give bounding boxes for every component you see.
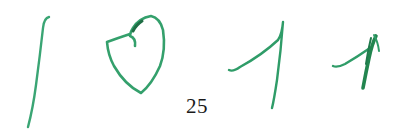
handwritten-digit-7-or-1	[229, 22, 283, 108]
page-number: 25	[186, 94, 208, 118]
handwritten-digit-1	[28, 17, 49, 127]
handwritten-digit-0-heart	[107, 16, 164, 93]
handwritten-digit-small-1	[333, 35, 379, 88]
handwriting-sheet: 25	[0, 0, 406, 134]
